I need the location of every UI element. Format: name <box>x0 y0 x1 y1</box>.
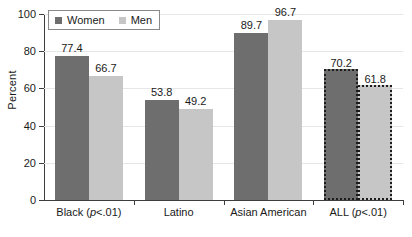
gridline <box>44 51 403 52</box>
y-axis-tick-label: 0 <box>30 194 36 206</box>
y-axis-tick-label: 20 <box>24 157 36 169</box>
bar-chart: Percent 77.466.753.849.289.796.770.261.8… <box>0 0 412 237</box>
x-axis-label: Asian American <box>230 206 306 218</box>
bar: 49.2 <box>179 109 213 201</box>
bar: 66.7 <box>89 76 123 200</box>
y-axis-tick <box>39 200 44 201</box>
x-axis-group-separator <box>313 200 314 205</box>
y-axis-tick-label: 40 <box>24 120 36 132</box>
bar-value-label: 89.7 <box>241 19 262 31</box>
bar-value-label: 96.7 <box>275 6 296 18</box>
legend-label-women: Women <box>67 14 105 26</box>
bar-value-label: 77.4 <box>61 42 82 54</box>
y-axis-tick <box>39 126 44 127</box>
y-axis-title: Percent <box>6 54 18 126</box>
bar: 89.7 <box>234 33 268 200</box>
legend-swatch-icon-women <box>55 17 62 24</box>
bar-value-label: 49.2 <box>185 95 206 107</box>
x-axis-end-tick <box>403 200 404 205</box>
bar: 61.8 <box>358 85 392 200</box>
bar: 70.2 <box>324 69 358 200</box>
legend-label-men: Men <box>131 14 152 26</box>
x-axis-group-separator <box>224 200 225 205</box>
y-axis-tick <box>39 14 44 15</box>
legend-item-women: Women <box>55 14 105 26</box>
bar: 96.7 <box>268 20 302 200</box>
y-axis-tick-label: 100 <box>18 8 36 20</box>
x-axis-label: Black (p<.01) <box>56 206 121 218</box>
y-axis-tick-label: 80 <box>24 45 36 57</box>
legend-item-men: Men <box>119 14 152 26</box>
legend: Women Men <box>48 10 160 30</box>
legend-swatch-icon-men <box>119 17 126 24</box>
plot-area: 77.466.753.849.289.796.770.261.8 <box>44 14 403 200</box>
x-axis-label: Latino <box>164 206 194 218</box>
y-axis-tick-label: 60 <box>24 82 36 94</box>
y-axis-tick <box>39 163 44 164</box>
bar-value-label: 66.7 <box>95 62 116 74</box>
bar: 77.4 <box>55 56 89 200</box>
bar-value-label: 61.8 <box>364 73 385 85</box>
bar-value-label: 70.2 <box>330 57 351 69</box>
x-axis-group-separator <box>134 200 135 205</box>
x-axis-label: ALL (p<.01) <box>329 206 386 218</box>
bar: 53.8 <box>145 100 179 200</box>
y-axis-tick <box>39 88 44 89</box>
y-axis-tick <box>39 51 44 52</box>
bar-value-label: 53.8 <box>151 86 172 98</box>
